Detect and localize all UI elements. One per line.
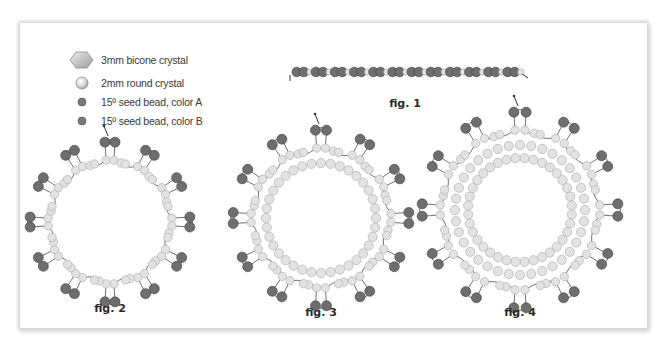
legend-label: 3mm bicone crystal <box>101 54 188 66</box>
round-crystal <box>265 232 274 241</box>
seed-bead <box>597 259 607 269</box>
bicone-crystal-icon <box>70 52 93 68</box>
round-crystal <box>502 256 511 265</box>
seed-bead <box>33 253 43 263</box>
round-crystal <box>254 245 262 253</box>
round-crystal <box>299 148 307 156</box>
round-crystal <box>496 130 504 138</box>
round-crystal <box>527 269 536 278</box>
round-crystal <box>520 154 529 163</box>
seed-bead <box>267 140 277 150</box>
seed-bead <box>433 259 443 269</box>
round-crystal <box>281 256 290 265</box>
thread-start-arrow-icon <box>315 114 319 124</box>
round-crystal <box>591 226 599 234</box>
round-crystal <box>579 194 588 203</box>
seed-bead <box>149 150 159 160</box>
round-crystal <box>591 186 599 194</box>
round-crystal <box>493 144 502 153</box>
seed-bead <box>461 287 471 297</box>
round-crystal <box>454 228 463 237</box>
round-crystal <box>461 151 469 159</box>
seed-bead <box>69 289 79 299</box>
round-crystal <box>483 149 492 158</box>
seed-bead <box>277 134 287 144</box>
round-crystal <box>368 195 377 204</box>
thread-start-arrow-icon <box>514 96 518 106</box>
round-crystal <box>474 156 483 165</box>
round-crystal <box>312 144 320 152</box>
round-crystal <box>502 155 511 164</box>
round-crystal <box>565 164 574 173</box>
round-crystal <box>364 186 373 195</box>
round-crystal <box>450 205 459 214</box>
round-crystal <box>121 160 129 168</box>
figure-1-strip <box>290 67 528 81</box>
round-crystal <box>148 175 156 183</box>
round-crystal <box>472 139 480 147</box>
round-crystal <box>356 272 364 280</box>
round-crystal <box>48 202 56 210</box>
seed-bead <box>185 212 195 222</box>
round-crystal <box>582 250 590 258</box>
round-crystal <box>274 178 283 187</box>
round-crystal <box>560 272 568 280</box>
seed-bead <box>177 253 187 263</box>
round-crystal <box>548 149 557 158</box>
round-crystal <box>133 273 141 281</box>
figure-4-label: fig. 4 <box>504 306 536 319</box>
round-crystal <box>334 148 342 156</box>
round-crystal <box>365 262 373 270</box>
seed-bead <box>25 212 35 222</box>
round-crystal <box>379 245 387 253</box>
round-crystal <box>344 166 353 175</box>
round-crystal <box>371 204 380 213</box>
seed-bead <box>61 284 71 294</box>
round-crystal <box>440 226 448 234</box>
round-crystal <box>548 262 557 271</box>
round-crystal <box>365 166 373 174</box>
round-crystal <box>164 233 172 241</box>
round-crystal <box>537 253 546 262</box>
round-crystal <box>515 270 524 279</box>
round-crystal <box>298 162 307 171</box>
thread-start-arrow-icon <box>103 125 106 128</box>
round-crystal <box>551 134 559 142</box>
seed-bead <box>310 125 320 135</box>
seed-bead <box>559 293 569 303</box>
round-crystal <box>312 284 320 292</box>
round-crystal <box>566 219 575 228</box>
round-crystal <box>321 144 329 152</box>
seed-bead <box>172 261 182 271</box>
seed-bead <box>38 173 48 183</box>
round-crystal <box>326 268 335 277</box>
thread-start-arrow-icon <box>104 126 108 136</box>
round-crystal <box>262 223 271 232</box>
round-crystal <box>483 262 492 271</box>
seed-bead <box>141 289 151 299</box>
round-crystal <box>254 183 262 191</box>
round-crystal <box>444 241 452 249</box>
round-crystal <box>566 192 575 201</box>
round-crystal <box>580 205 589 214</box>
seed-bead <box>69 145 79 155</box>
round-crystal <box>63 260 71 268</box>
round-crystal <box>387 209 395 217</box>
round-crystal <box>289 166 298 175</box>
round-crystal <box>520 257 529 266</box>
round-crystal <box>298 265 307 274</box>
seed-bead <box>355 134 365 144</box>
seed-bead <box>267 286 277 296</box>
thread-path <box>231 128 412 309</box>
round-crystal <box>480 134 488 142</box>
round-crystal <box>269 166 277 174</box>
round-crystal <box>468 227 477 236</box>
seed-bead <box>389 262 399 272</box>
seed-bead <box>185 222 195 232</box>
round-crystal <box>335 265 344 274</box>
seed-bead <box>365 286 375 296</box>
legend-item-seed-a: 15º seed bead, color A <box>78 96 202 108</box>
round-crystal <box>440 186 448 194</box>
round-crystal <box>281 171 290 180</box>
round-crystal <box>472 272 480 280</box>
